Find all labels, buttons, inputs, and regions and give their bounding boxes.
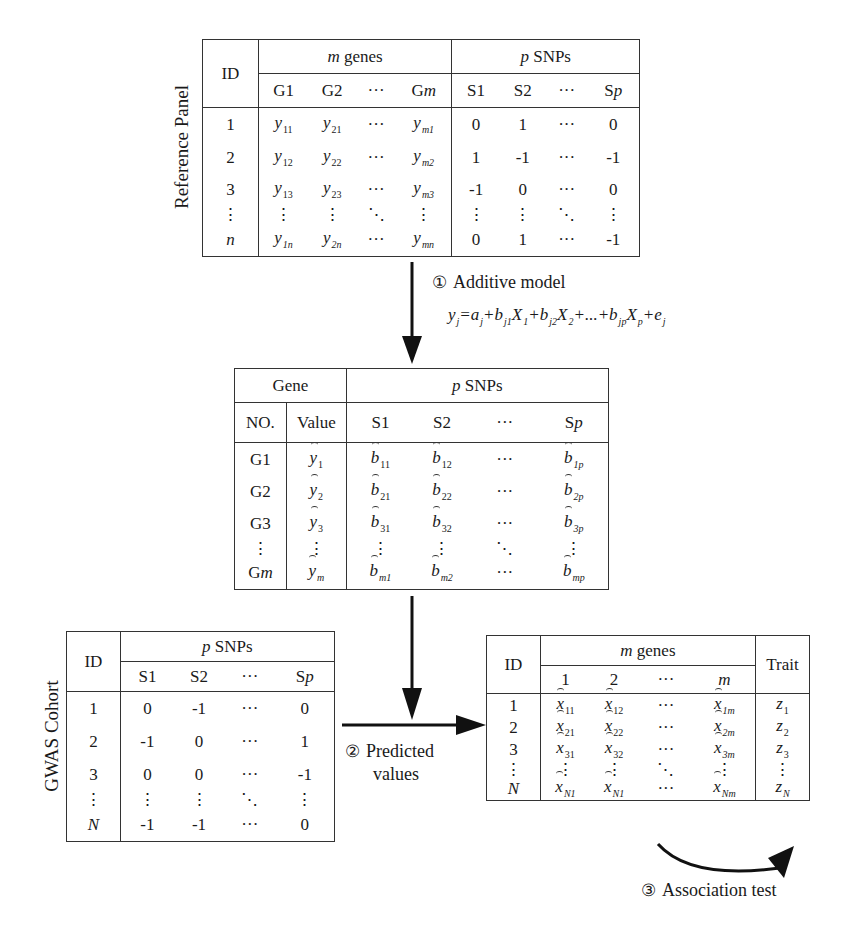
gwas-cohort-label: GWAS Cohort [41,676,63,796]
id-header: ID [67,632,121,692]
table-row: ⋮ ⋮ ⋮ ⋱ ⋮ [67,791,335,808]
id-header: ID [203,40,259,108]
table-row: G1 y1 b11 b12 ··· b1p [235,443,609,476]
table-row: ⋮ ⋮ ⋮ ⋱ ⋮ ⋮ ⋮ ⋱ ⋮ [203,206,640,223]
genes-group-header: m genes [540,636,755,666]
table-row: 3 x31 x32 ··· x3m z3 [487,738,810,760]
arrow-right [342,710,488,740]
col-1: 1 [540,666,590,694]
table-row: ⋮ ⋮ ⋮ ⋮ ⋱ ⋮ [235,540,609,557]
gwas-cohort-table: ID p SNPs S1 S2 ··· Sp 1 0 -1 ··· 0 2 -1… [66,631,335,842]
col-sp: Sp [276,662,335,692]
col-s2: S2 [174,662,224,692]
table-row: 2 -1 0 ··· 1 [67,725,335,758]
col-2: 2 [590,666,638,694]
col-sdots: ··· [546,74,588,108]
row-id: n [203,223,259,256]
reference-panel-table: ID m genes p SNPs G1 G2 ··· Gm S1 S2 ···… [202,39,640,257]
row-id: 2 [203,141,259,174]
col-sp: Sp [588,74,640,108]
row-id: 1 [203,108,259,141]
col-s1: S1 [346,403,414,443]
table-row: 2 x21 x22 ··· x2m z2 [487,716,810,738]
col-sp: Sp [540,403,609,443]
col-s1: S1 [120,662,174,692]
value-header: Value [286,403,346,443]
genes-group-header: m genes [258,40,452,74]
id-header: ID [487,636,541,694]
col-s2: S2 [414,403,470,443]
step2-label: ②Predicted values [345,740,434,785]
col-g2: G2 [308,74,356,108]
table-row: Gm ym bm1 bm2 ··· bmp [235,557,609,590]
table-row: 1 x11 x12 ··· x1m z1 [487,694,810,717]
table-row: n y1n y2n ··· ymn 0 1 ··· -1 [203,223,640,256]
row-id: 3 [203,173,259,206]
col-gdots: ··· [356,74,396,108]
table-row: G3 y3 b31 b32 ··· b3p [235,507,609,539]
col-s1: S1 [452,74,500,108]
weights-table: Gene p SNPs NO. Value S1 S2 ··· Sp G1 y1… [234,368,609,590]
predicted-table: ID m genes Trait 1 2 ··· m 1 x11 x12 ···… [486,635,810,801]
snps-group-header: p SNPs [120,632,334,662]
col-dots: ··· [638,666,694,694]
snps-group-header: p SNPs [452,40,640,74]
snps-group-header: p SNPs [346,369,608,403]
table-row: 3 y13 y23 ··· ym3 -1 0 ··· 0 [203,173,640,206]
col-sdots: ··· [224,662,276,692]
col-m: m [694,666,756,694]
col-gm: Gm [396,74,452,108]
no-header: NO. [235,403,287,443]
additive-model-formula: yj=aj+bj1X1+bj2X2+...+bjpXp+ej [448,305,666,327]
trait-header: Trait [756,636,810,694]
table-row: 1 y11 y21 ··· ym1 0 1 ··· 0 [203,108,640,141]
table-row: 1 0 -1 ··· 0 [67,692,335,726]
col-sdots: ··· [470,403,540,443]
arrow-down-2 [400,596,424,724]
arrow-down-1 [400,262,424,366]
gene-header: Gene [235,369,347,403]
reference-panel-label: Reference Panel [171,77,193,217]
table-row: ⋮ ⋮ ⋮ ⋱ ⋮ ⋮ [487,761,810,778]
table-row: N -1 -1 ··· 0 [67,808,335,842]
table-row: N xN1 xN1 ··· xNm zN [487,778,810,801]
table-row: 2 y12 y22 ··· ym2 1 -1 ··· -1 [203,141,640,174]
table-row: 3 0 0 ··· -1 [67,758,335,791]
step1-label: ①Additive model [432,272,565,293]
step3-label: ③Association test [641,880,777,901]
col-g1: G1 [258,74,308,108]
col-s2: S2 [500,74,546,108]
table-row: G2 y2 b21 b22 ··· b2p [235,475,609,507]
